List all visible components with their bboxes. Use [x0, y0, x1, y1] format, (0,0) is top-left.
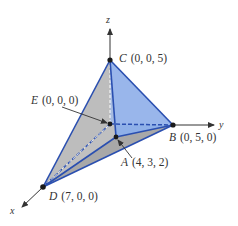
x-axis-label: x: [9, 205, 15, 216]
tetrahedron-diagram: z y x C(0, 0, 5) E(0, 0, 0) B(0, 5, 0) A…: [0, 0, 238, 226]
vertex-C: [107, 57, 112, 62]
vertex-B: [170, 122, 175, 127]
vertex-D: [40, 184, 46, 190]
label-E: E(0, 0, 0): [30, 94, 79, 107]
label-D: D(7, 0, 0): [48, 190, 98, 203]
vertex-A: [114, 135, 119, 140]
label-A: A(4, 3, 2): [120, 156, 169, 169]
label-C: C(0, 0, 5): [119, 52, 167, 65]
vertex-E: [108, 122, 113, 127]
z-axis-label: z: [105, 14, 110, 25]
y-axis-label: y: [218, 119, 224, 130]
x-axis: [22, 187, 43, 207]
label-B: B(0, 5, 0): [169, 131, 217, 144]
